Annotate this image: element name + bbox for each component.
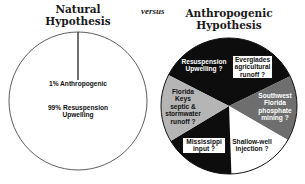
label-shallow-well-injection: Shallow-well injection ? [228,138,276,153]
label-keys-line5: runoff ? [161,118,205,125]
label-florida-keys-septic: Florida Keys septic & stormwater runoff … [161,88,205,125]
label-southwest-line1: Southwest [252,92,298,99]
label-everglades-line1: Everglades [234,56,271,63]
label-keys-line4: stormwater [161,110,205,117]
label-everglades-runoff: Everglades agricultural runoff ? [232,55,273,79]
natural-label-anthropogenic: 1% Anthropogenic [38,80,118,87]
label-shallow-line1: Shallow-well [228,138,276,145]
label-southwest-florida-phosphate: Southwest Florida phosphate mining ? [252,92,298,122]
label-mississippi-line2: input ? [184,145,224,152]
label-keys-line1: Florida [161,88,205,95]
label-keys-line3: septic & [161,103,205,110]
label-southwest-line4: mining ? [252,114,298,121]
label-southwest-line2: Florida [252,99,298,106]
label-resuspension-upwelling: Resuspension Upwelling ? [176,58,232,73]
label-everglades-line2: agricultural [234,63,271,70]
label-mississippi-line1: Mississippi [184,138,224,145]
label-everglades-line3: runoff ? [234,71,271,78]
label-resuspension-line1: Resuspension [176,58,232,65]
natural-label-anthropogenic-text: 1% Anthropogenic [49,80,107,87]
natural-label-resuspension-line2: Upwelling [33,111,123,118]
natural-pie [9,32,147,170]
label-mississippi-input: Mississippi input ? [182,137,226,154]
natural-label-resuspension-line1: 99% Resuspension [33,104,123,111]
label-shallow-line2: injection ? [228,145,276,152]
label-keys-line2: Keys [161,95,205,102]
natural-label-resuspension: 99% Resuspension Upwelling [33,104,123,119]
label-southwest-line3: phosphate [252,107,298,114]
label-resuspension-line2: Upwelling ? [176,65,232,72]
